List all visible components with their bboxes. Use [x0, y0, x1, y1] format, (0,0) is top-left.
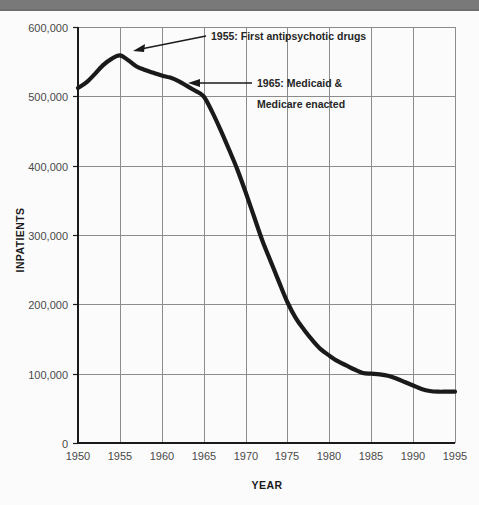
titlebar-highlight — [0, 0, 479, 9]
x-tick-label-1985: 1985 — [359, 450, 383, 462]
window-titlebar — [0, 0, 479, 11]
annotation-1965-label-line-2: Medicare enacted — [257, 98, 345, 110]
y-tick-label-300,000: 300,000 — [28, 230, 68, 242]
chart-page: 0100,000200,000300,000400,000500,000600,… — [0, 0, 479, 505]
x-tick-label-1960: 1960 — [150, 450, 174, 462]
x-tick-label-1950: 1950 — [66, 450, 90, 462]
x-tick-label-1975: 1975 — [275, 450, 299, 462]
chart-background — [0, 11, 479, 505]
x-tick-label-1995: 1995 — [443, 450, 467, 462]
y-tick-label-100,000: 100,000 — [28, 369, 68, 381]
y-tick-label-600,000: 600,000 — [28, 22, 68, 34]
annotation-1955-label: 1955: First antipsychotic drugs — [211, 30, 366, 42]
x-tick-label-1990: 1990 — [401, 450, 425, 462]
y-tick-label-500,000: 500,000 — [28, 91, 68, 103]
x-tick-label-1965: 1965 — [192, 450, 216, 462]
chart-container: 0100,000200,000300,000400,000500,000600,… — [0, 11, 479, 505]
y-tick-label-400,000: 400,000 — [28, 161, 68, 173]
x-axis-title: YEAR — [252, 479, 283, 491]
x-tick-label-1970: 1970 — [234, 450, 258, 462]
annotation-1965-label-line-1: 1965: Medicaid & — [257, 77, 343, 89]
x-tick-label-1955: 1955 — [108, 450, 132, 462]
y-tick-label-200,000: 200,000 — [28, 299, 68, 311]
y-axis-title: INPATIENTS — [14, 208, 26, 273]
y-tick-label-0: 0 — [62, 438, 68, 450]
x-tick-label-1980: 1980 — [317, 450, 341, 462]
inpatients-line-chart: 0100,000200,000300,000400,000500,000600,… — [0, 11, 479, 505]
